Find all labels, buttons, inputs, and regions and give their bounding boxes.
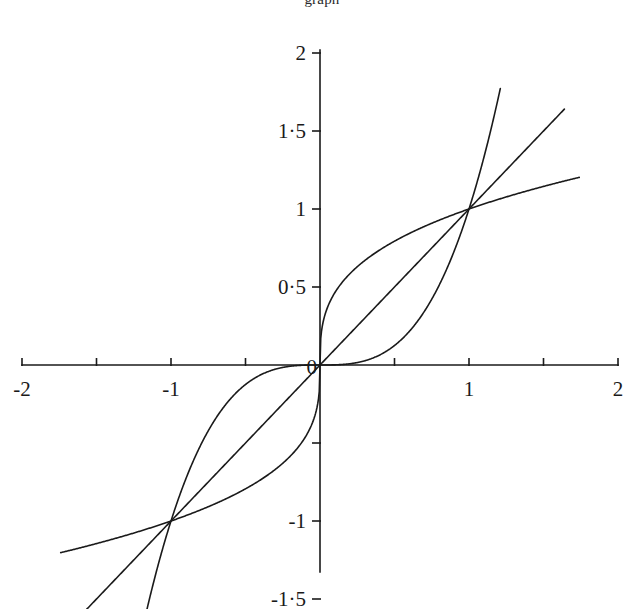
axis-group xyxy=(22,50,618,572)
x-axis-tick-label: 1 xyxy=(464,379,475,400)
plot-canvas xyxy=(0,0,644,609)
graph-figure: graph -2-11221·510·5-1-1·50 xyxy=(0,0,644,609)
x-axis-tick-label: 2 xyxy=(613,379,624,400)
y-axis-tick-label: 1·5 xyxy=(278,121,306,142)
y-axis-tick-label: 0·5 xyxy=(278,277,306,298)
y-axis-tick-label: -1·5 xyxy=(271,589,306,609)
y-axis-tick-label: -1 xyxy=(289,511,307,532)
x-axis-tick-label: -2 xyxy=(13,379,31,400)
y-axis-tick-label: 2 xyxy=(296,43,307,64)
y-axis-tick-label: 1 xyxy=(296,199,307,220)
x-axis-tick-label: -1 xyxy=(162,379,180,400)
origin-tick-label: 0 xyxy=(307,357,318,378)
